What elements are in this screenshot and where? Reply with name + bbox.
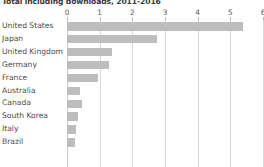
bar-chart: Total including downloads, 2011-2016 012… [0,0,264,167]
bar-row: Brazil [0,136,264,149]
bar-track [67,22,263,30]
bar-track [67,35,263,43]
x-axis-ticks: 0123456 [67,8,263,20]
bar-track [67,87,263,95]
bar [67,22,243,30]
bar-row: France [0,72,264,85]
bar [67,125,76,133]
bar [67,87,80,95]
bar [67,100,82,108]
bar-row: Japan [0,33,264,46]
bar-track [67,74,263,82]
chart-title: Total including downloads, 2011-2016 [2,0,252,6]
bar-track [67,48,263,56]
bar [67,61,109,69]
bar-row: United Kingdom [0,46,264,59]
bar [67,74,98,82]
x-tick-label: 5 [228,8,233,17]
bar-track [67,112,263,120]
bar-track [67,138,263,146]
bar [67,48,112,56]
bar [67,35,157,43]
bar-row: Australia [0,85,264,98]
bar-row: Canada [0,97,264,110]
x-tick-label: 4 [195,8,200,17]
x-tick-label: 2 [130,8,135,17]
bar-track [67,125,263,133]
bar [67,112,78,120]
bar-row: United States [0,20,264,33]
bar-row: Italy [0,123,264,136]
bar-row: South Korea [0,110,264,123]
x-tick-label: 3 [163,8,168,17]
x-tick-label: 1 [97,8,102,17]
bar-row: Germany [0,59,264,72]
bar-rows: United StatesJapanUnited KingdomGermanyF… [0,20,264,167]
bar [67,138,75,146]
x-tick-label: 0 [65,8,70,17]
bar-track [67,61,263,69]
x-tick-label: 6 [261,8,264,17]
bar-track [67,100,263,108]
